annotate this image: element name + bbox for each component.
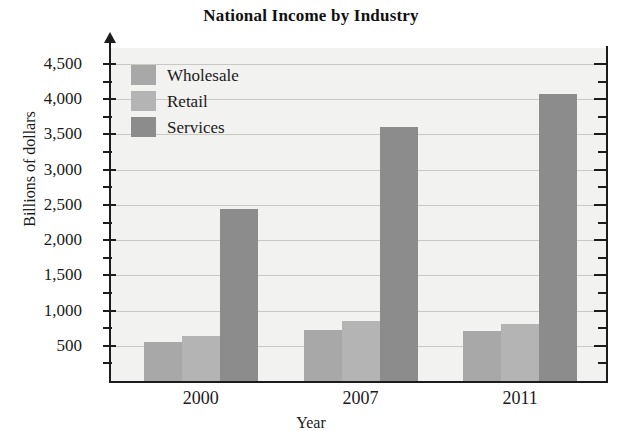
tick-major-right-3000 [594,169,607,171]
y-tick-label-500: 500 [12,337,82,354]
bar-services-2011 [539,94,577,381]
bar-group-2011 [463,48,577,381]
x-axis-title: Year [0,414,622,432]
bar-services-2007 [380,127,418,381]
legend-swatch-services [131,117,156,137]
y-axis-arrow-icon [104,32,116,43]
x-tick-label-2011: 2011 [460,388,580,409]
right-axis-line [606,46,608,383]
bar-retail-2007 [342,321,380,381]
tick-major-left-3000 [103,169,116,171]
chart-figure: National Income by Industry 5001,0001,50… [0,0,622,440]
tick-major-right-4000 [594,98,607,100]
tick-major-left-1500 [103,274,116,276]
legend-item-retail: Retail [131,88,239,114]
tick-minor-left-1750 [103,257,112,259]
x-tick-label-2007: 2007 [301,388,421,409]
tick-major-left-3500 [103,133,116,135]
y-tick-label-1000: 1,000 [12,302,82,319]
tick-minor-left-4250 [103,81,112,83]
bar-group-2007 [304,48,418,381]
tick-minor-right-4250 [598,81,607,83]
bar-retail-2000 [182,336,220,381]
tick-major-left-2500 [103,204,116,206]
tick-minor-left-1250 [103,292,112,294]
tick-minor-right-1250 [598,292,607,294]
x-tick-label-2000: 2000 [141,388,261,409]
tick-major-left-1000 [103,310,116,312]
y-axis-line [109,40,111,383]
tick-minor-right-750 [598,327,607,329]
tick-major-right-3500 [594,133,607,135]
bar-retail-2011 [501,324,539,381]
tick-major-left-4000 [103,98,116,100]
tick-minor-left-2250 [103,222,112,224]
tick-minor-left-250 [103,362,112,364]
tick-major-right-2000 [594,239,607,241]
legend-item-services: Services [131,114,239,140]
tick-minor-right-250 [598,362,607,364]
tick-major-right-4500 [594,63,607,65]
legend-label-wholesale: Wholesale [167,67,239,84]
bar-services-2000 [220,209,258,381]
tick-major-right-1000 [594,310,607,312]
chart-title: National Income by Industry [0,6,622,26]
tick-major-left-500 [103,345,116,347]
tick-minor-right-1750 [598,257,607,259]
tick-major-right-500 [594,345,607,347]
legend-swatch-wholesale [131,65,156,85]
tick-minor-left-2750 [103,186,112,188]
tick-minor-right-2750 [598,186,607,188]
tick-minor-left-750 [103,327,112,329]
tick-minor-right-2250 [598,222,607,224]
bar-wholesale-2007 [304,330,342,381]
tick-minor-left-3250 [103,151,112,153]
tick-major-left-4500 [103,63,116,65]
legend-swatch-retail [131,91,156,111]
tick-minor-right-3250 [598,151,607,153]
legend-label-retail: Retail [167,93,208,110]
chart-legend: WholesaleRetailServices [131,62,239,140]
tick-minor-left-3750 [103,116,112,118]
x-axis-line [109,381,608,383]
legend-label-services: Services [167,119,225,136]
tick-minor-right-3750 [598,116,607,118]
bar-wholesale-2000 [144,342,182,381]
y-axis-title: Billions of dollars [21,69,39,269]
tick-major-right-2500 [594,204,607,206]
tick-major-right-1500 [594,274,607,276]
bar-wholesale-2011 [463,331,501,381]
legend-item-wholesale: Wholesale [131,62,239,88]
tick-major-left-2000 [103,239,116,241]
